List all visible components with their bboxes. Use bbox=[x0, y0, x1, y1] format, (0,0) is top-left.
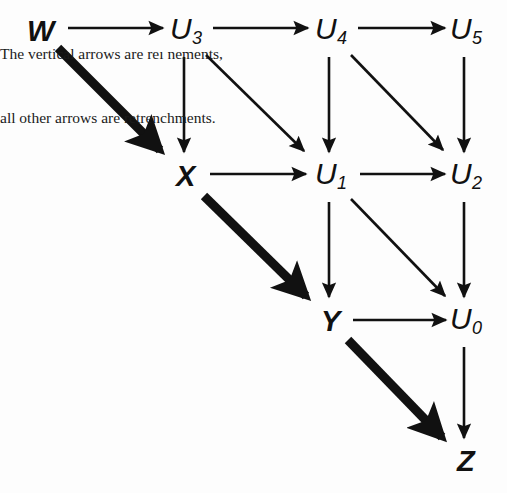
node-u2: U2 bbox=[450, 159, 482, 192]
edge-x-to-y-retrenchment bbox=[204, 196, 306, 296]
node-subscript: 0 bbox=[472, 319, 482, 339]
node-label: U bbox=[315, 12, 337, 45]
node-label: Z bbox=[457, 445, 475, 477]
node-z: Z bbox=[457, 447, 475, 476]
node-u0: U0 bbox=[450, 304, 482, 337]
figure-canvas: WU3U4U5XU1U2YU0Z The vertical arrows are… bbox=[0, 0, 507, 493]
node-subscript: 1 bbox=[337, 174, 347, 194]
node-u5: U5 bbox=[450, 14, 482, 47]
node-label: U bbox=[450, 12, 472, 45]
figure-caption: The vertical arrows are reı nements, all… bbox=[0, 0, 223, 171]
node-subscript: 4 bbox=[337, 29, 347, 49]
edge-y-to-z-retrenchment bbox=[348, 340, 442, 437]
caption-line-2: all other arrows are retrenchments. bbox=[0, 107, 223, 128]
caption-line-1: The vertical arrows are reı nements, bbox=[0, 43, 223, 64]
node-y: Y bbox=[321, 307, 341, 336]
node-u4: U4 bbox=[315, 14, 347, 47]
node-subscript: 2 bbox=[472, 174, 482, 194]
node-subscript: 5 bbox=[472, 29, 482, 49]
node-label: U bbox=[450, 157, 472, 190]
node-label: U bbox=[315, 157, 337, 190]
edge-u4-to-u2-retrenchment bbox=[351, 55, 443, 150]
node-label: Y bbox=[321, 305, 341, 337]
edge-u1-to-u0-retrenchment bbox=[351, 199, 445, 296]
node-label: U bbox=[450, 302, 472, 335]
node-u1: U1 bbox=[315, 159, 347, 192]
